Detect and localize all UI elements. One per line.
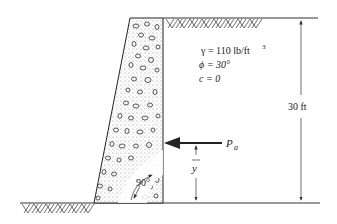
unit-weight-exponent: 3 (262, 43, 266, 51)
ground-base (20, 203, 320, 213)
force-label: P (225, 137, 233, 149)
force-subscript: a (234, 143, 238, 152)
ground-hatching-bottom (22, 204, 94, 213)
soil-properties: γ = 110 lb/ft 3 ϕ = 30° c = 0 (199, 43, 266, 84)
height-dimension: 30 ft (288, 21, 307, 200)
angle-label: 90° (136, 177, 150, 188)
unit-weight: γ = 110 lb/ft (200, 45, 250, 56)
cohesion: c = 0 (199, 73, 220, 84)
lever-arm-label: y (191, 162, 197, 174)
retaining-wall-diagram: 90° P a y 30 ft γ = 110 lb/ft 3 ϕ = 30° … (0, 0, 337, 224)
lever-arm-dimension: y (191, 146, 200, 200)
friction-angle: ϕ = 30° (199, 59, 230, 70)
gravity-wall (94, 18, 163, 203)
ground-hatching-top (166, 19, 262, 28)
active-force: P a (166, 137, 238, 152)
backfill-surface (163, 18, 318, 28)
height-label: 30 ft (288, 101, 307, 112)
